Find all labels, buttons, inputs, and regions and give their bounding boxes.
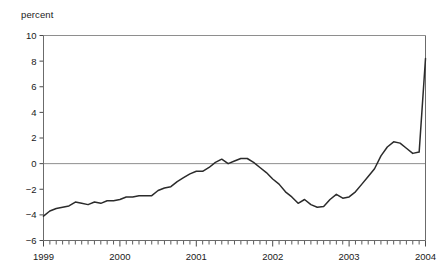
y-tick-label: −4 (26, 209, 37, 220)
y-tick-label: 0 (31, 158, 36, 169)
x-tick-label: 2003 (339, 251, 360, 262)
data-series-line-0 (44, 59, 426, 217)
y-tick-label: −2 (26, 184, 37, 195)
y-tick-label: −6 (26, 235, 37, 246)
chart-container: percent −6−4−202468101999200020012002200… (0, 0, 448, 275)
y-tick-label: 10 (26, 30, 37, 41)
x-tick-label: 1999 (33, 251, 54, 262)
y-tick-label: 8 (31, 56, 36, 67)
x-tick-label: 2000 (109, 251, 130, 262)
tickmarks-group (40, 36, 426, 247)
axis-lines-group (44, 36, 426, 241)
y-tick-label: 2 (31, 132, 36, 143)
y-tick-label: 6 (31, 81, 36, 92)
line-chart-plot: −6−4−20246810199920002001200220032004 (0, 0, 448, 275)
x-tick-label: 2004 (415, 251, 436, 262)
y-tick-label: 4 (31, 107, 36, 118)
tick-labels-group: −6−4−20246810199920002001200220032004 (26, 30, 436, 262)
data-series-group (44, 59, 426, 217)
x-tick-label: 2002 (262, 251, 283, 262)
x-tick-label: 2001 (186, 251, 207, 262)
gridlines-group (44, 36, 426, 164)
